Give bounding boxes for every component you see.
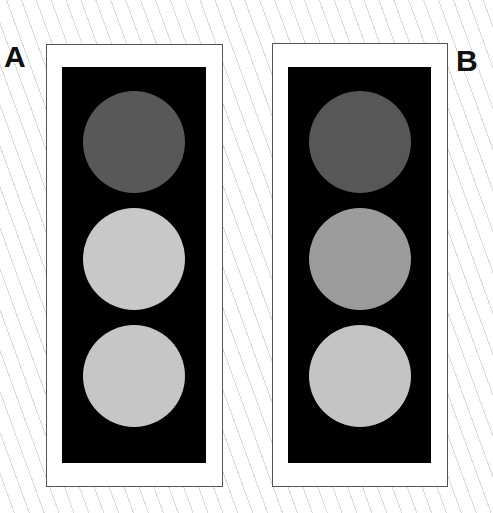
lamp-middle-b (309, 208, 411, 310)
traffic-light-housing-a (62, 67, 206, 463)
traffic-light-frame-a (46, 44, 223, 487)
lamp-bottom-b (309, 325, 411, 427)
panel-label-a: A (4, 40, 26, 74)
traffic-light-housing-b (288, 67, 431, 463)
traffic-light-frame-b (272, 43, 448, 487)
lamp-top-b (309, 91, 411, 193)
panel-label-b: B (456, 44, 478, 78)
lamp-top-a (83, 91, 185, 193)
lamp-bottom-a (83, 325, 185, 427)
lamp-middle-a (83, 208, 185, 310)
